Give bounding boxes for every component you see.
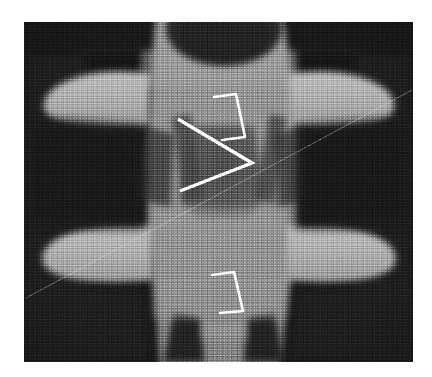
radiograph-canvas bbox=[24, 22, 413, 362]
figure-page bbox=[0, 0, 432, 377]
midline-haze bbox=[154, 208, 286, 318]
radiograph-image bbox=[24, 22, 413, 362]
